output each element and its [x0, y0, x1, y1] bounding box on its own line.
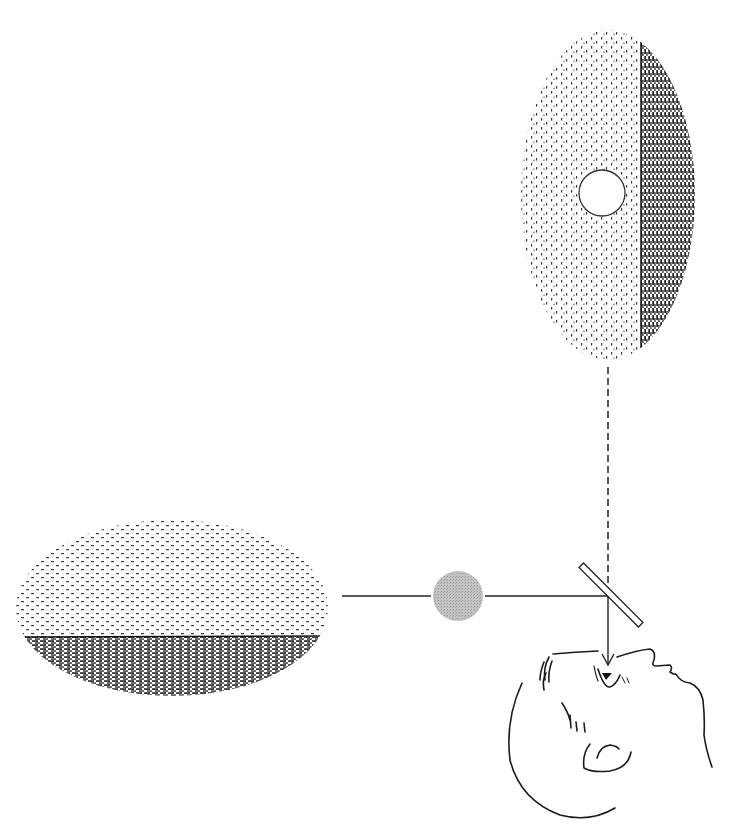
- hair-stroke: [549, 661, 552, 682]
- eye: [598, 669, 620, 687]
- pupil: [602, 673, 612, 680]
- brow-line: [553, 651, 598, 654]
- optics-diagram: [0, 0, 752, 831]
- lower-field-dark-half: [10, 637, 340, 707]
- lash: [622, 677, 625, 683]
- lower-field-divider: [16, 636, 328, 637]
- cheek-line: [584, 723, 585, 732]
- cheek-line: [570, 715, 571, 728]
- nose: [617, 649, 712, 767]
- beam-splitter: [579, 563, 643, 627]
- cheek-line: [562, 703, 570, 720]
- cheek-line: [576, 722, 577, 731]
- lower-field: [10, 515, 340, 707]
- eye-lid: [594, 666, 598, 681]
- white-aperture: [579, 170, 625, 216]
- ear-inner: [597, 745, 619, 758]
- diagram-canvas: Line illustration of an optical viewing …: [0, 0, 752, 831]
- gray-filter-disk: [433, 571, 483, 621]
- lower-field-light-half: [10, 515, 340, 637]
- observer-head: [509, 649, 712, 818]
- upper-field-dark-half: [641, 25, 711, 370]
- lash: [627, 678, 629, 683]
- ear: [584, 744, 631, 772]
